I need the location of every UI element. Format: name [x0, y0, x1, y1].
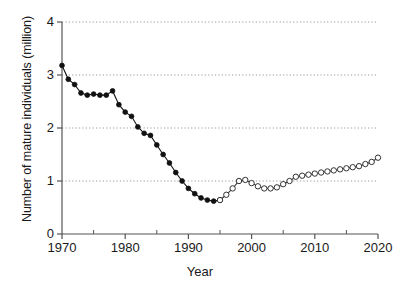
- data-point-observed: [85, 93, 90, 98]
- data-point-projected: [224, 192, 229, 197]
- data-point-projected: [287, 178, 292, 183]
- data-point-observed: [199, 196, 204, 201]
- y-tick-label: 2: [32, 120, 54, 135]
- data-point-observed: [148, 133, 153, 138]
- data-point-projected: [268, 186, 273, 191]
- data-point-projected: [217, 197, 222, 202]
- data-point-projected: [375, 155, 380, 160]
- data-point-projected: [325, 169, 330, 174]
- x-tick-label: 2020: [348, 240, 400, 255]
- data-point-projected: [306, 172, 311, 177]
- data-point-projected: [331, 168, 336, 173]
- data-point-projected: [318, 170, 323, 175]
- data-point-observed: [135, 125, 140, 130]
- data-point-observed: [180, 179, 185, 184]
- data-point-projected: [274, 185, 279, 190]
- data-point-projected: [255, 184, 260, 189]
- data-point-projected: [299, 173, 304, 178]
- data-point-observed: [129, 114, 134, 119]
- y-tick-label: 0: [32, 226, 54, 241]
- data-point-projected: [262, 186, 267, 191]
- data-point-projected: [236, 178, 241, 183]
- chart-container: Number of mature individuals (million) Y…: [0, 0, 400, 293]
- data-point-observed: [72, 82, 77, 87]
- data-point-observed: [211, 199, 216, 204]
- data-point-observed: [123, 110, 128, 115]
- data-point-observed: [173, 170, 178, 175]
- data-point-projected: [243, 177, 248, 182]
- data-point-projected: [337, 167, 342, 172]
- data-point-projected: [356, 163, 361, 168]
- data-point-projected: [312, 171, 317, 176]
- data-point-observed: [161, 152, 166, 157]
- data-point-observed: [66, 77, 71, 82]
- data-point-observed: [91, 92, 96, 97]
- data-point-observed: [167, 161, 172, 166]
- data-point-observed: [154, 143, 159, 148]
- y-tick-label: 4: [32, 14, 54, 29]
- data-point-observed: [186, 186, 191, 191]
- y-tick-label: 1: [32, 173, 54, 188]
- data-point-projected: [369, 159, 374, 164]
- data-point-observed: [60, 63, 65, 68]
- data-point-observed: [98, 93, 103, 98]
- data-point-projected: [350, 165, 355, 170]
- data-point-projected: [344, 166, 349, 171]
- x-tick-label: 2010: [285, 240, 345, 255]
- x-tick-label: 2000: [222, 240, 282, 255]
- data-point-observed: [116, 102, 121, 107]
- data-point-projected: [249, 180, 254, 185]
- y-tick-label: 3: [32, 67, 54, 82]
- data-point-observed: [79, 91, 84, 96]
- x-tick-label: 1970: [32, 240, 92, 255]
- data-point-observed: [205, 198, 210, 203]
- data-point-observed: [192, 191, 197, 196]
- x-tick-label: 1980: [95, 240, 155, 255]
- data-point-observed: [142, 131, 147, 136]
- data-point-projected: [281, 181, 286, 186]
- x-axis-title: Year: [0, 264, 400, 279]
- data-point-projected: [293, 174, 298, 179]
- data-point-projected: [230, 186, 235, 191]
- x-tick-label: 1990: [158, 240, 218, 255]
- data-point-projected: [363, 161, 368, 166]
- data-point-observed: [104, 93, 109, 98]
- data-point-observed: [110, 89, 115, 94]
